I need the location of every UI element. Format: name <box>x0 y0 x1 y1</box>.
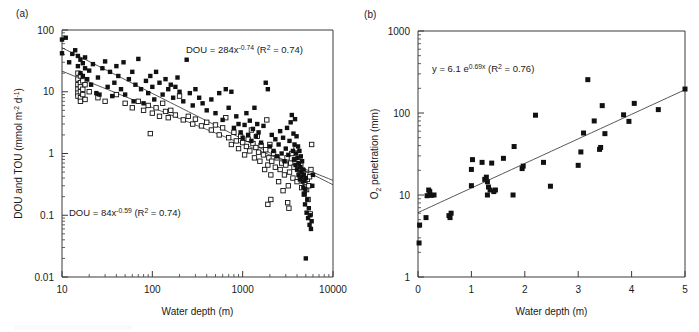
panel-a-xtick-label: 10 <box>56 284 68 295</box>
data-point-open <box>157 114 161 118</box>
data-point-open <box>285 200 289 204</box>
data-point-open <box>123 101 127 105</box>
data-point-filled <box>103 59 107 63</box>
data-point-open <box>287 170 291 174</box>
data-point-open <box>265 118 269 122</box>
data-point-filled <box>163 77 167 81</box>
data-point-filled <box>449 211 454 216</box>
data-point-filled <box>303 202 307 206</box>
data-point-filled <box>85 77 89 81</box>
data-point-open <box>264 148 268 152</box>
data-point-open <box>217 133 221 137</box>
data-point-filled <box>256 130 260 134</box>
panel-b-fit-line <box>418 90 685 213</box>
data-point-filled <box>157 81 161 85</box>
data-point-open <box>186 114 190 118</box>
data-point-filled <box>205 108 209 112</box>
data-point-filled <box>284 146 288 150</box>
data-point-filled <box>160 92 164 96</box>
data-point-filled <box>133 83 137 87</box>
data-point-open <box>258 159 262 163</box>
data-point-filled <box>576 163 581 168</box>
data-point-filled <box>304 256 308 260</box>
data-point-filled <box>533 113 538 118</box>
panel-a-xaxis-title: Water depth (m) <box>162 306 234 317</box>
data-point-open <box>205 120 209 124</box>
data-point-filled <box>169 83 173 87</box>
data-point-open <box>226 136 230 140</box>
data-point-filled <box>64 36 68 40</box>
data-point-filled <box>127 77 131 81</box>
panel-a-plot: 0.010.111010010100100010000DOU = 284x-0.… <box>0 0 350 332</box>
data-point-filled <box>81 74 85 78</box>
data-point-filled <box>300 159 304 163</box>
data-point-filled <box>249 139 253 143</box>
data-point-filled <box>585 77 590 82</box>
data-point-filled <box>656 107 661 112</box>
data-point-filled <box>73 48 77 52</box>
data-point-filled <box>220 118 224 122</box>
data-point-filled <box>240 136 244 140</box>
data-point-filled <box>184 58 188 62</box>
data-point-open <box>269 197 273 201</box>
data-point-filled <box>252 106 256 110</box>
panel-b-label: (b) <box>364 9 377 20</box>
data-point-filled <box>485 193 490 198</box>
data-point-open <box>150 111 154 115</box>
data-point-filled <box>60 51 64 55</box>
data-point-filled <box>116 74 120 78</box>
data-point-filled <box>493 188 498 193</box>
data-point-filled <box>114 64 118 68</box>
data-point-open <box>160 101 164 105</box>
data-point-filled <box>119 87 123 91</box>
data-point-filled <box>305 197 309 201</box>
data-point-filled <box>234 114 238 118</box>
data-point-filled <box>621 112 626 117</box>
panel-b-plot: 1101001000012345y = 6.1 e0.69x (R2 = 0.7… <box>350 0 699 332</box>
panel-b-xtick-label: 0 <box>415 284 421 295</box>
data-point-open <box>284 163 288 167</box>
data-point-open <box>83 97 87 101</box>
data-point-filled <box>246 133 250 137</box>
figure-container: (a) 0.010.111010010100100010000DOU = 284… <box>0 0 699 332</box>
data-point-open <box>234 139 238 143</box>
data-point-open <box>169 108 173 112</box>
data-point-filled <box>191 103 195 107</box>
data-point-filled <box>209 97 213 101</box>
data-point-filled <box>632 101 637 106</box>
panel-a-label: (a) <box>16 8 29 19</box>
data-point-open <box>248 149 252 153</box>
data-point-filled <box>242 123 246 127</box>
panel-b-xtick-label: 4 <box>629 284 635 295</box>
panel-a-xtick-label: 10000 <box>319 284 347 295</box>
data-point-open <box>232 130 236 134</box>
data-point-filled <box>273 137 277 141</box>
data-point-open <box>83 83 87 87</box>
data-point-filled <box>97 92 101 96</box>
data-point-filled <box>424 215 429 220</box>
data-point-filled <box>83 55 87 59</box>
data-point-filled <box>489 161 494 166</box>
data-point-filled <box>279 151 283 155</box>
data-point-open <box>209 128 213 132</box>
data-point-filled <box>598 145 603 150</box>
data-point-open <box>141 108 145 112</box>
data-point-filled <box>290 113 294 117</box>
data-point-filled <box>152 97 156 101</box>
panel-a-ytick-label: 10 <box>43 86 55 97</box>
data-point-filled <box>67 60 71 64</box>
data-point-filled <box>288 120 292 124</box>
panel-a-equation-tou: DOU = 284x-0.74 (R2 = 0.74) <box>186 44 303 55</box>
data-point-open <box>177 94 181 98</box>
data-point-open <box>81 87 85 91</box>
data-point-filled <box>226 106 230 110</box>
data-point-open <box>213 123 217 127</box>
data-point-filled <box>286 153 290 157</box>
data-point-filled <box>254 134 258 138</box>
panel-b-ytick-label: 100 <box>393 108 410 119</box>
data-point-filled <box>238 130 242 134</box>
data-point-filled <box>261 124 265 128</box>
data-point-open <box>244 144 248 148</box>
data-point-filled <box>268 144 272 148</box>
data-point-open <box>256 150 260 154</box>
